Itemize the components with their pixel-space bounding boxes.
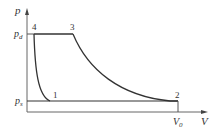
- x-axis-label: V: [201, 115, 209, 127]
- tick-ps: ps: [14, 95, 23, 108]
- tick-v0: V0: [173, 116, 183, 129]
- x-axis-arrow-icon: [201, 110, 208, 114]
- process-4-1: [34, 34, 50, 101]
- y-axis-arrow-icon: [25, 8, 29, 15]
- y-axis-label: p: [14, 4, 21, 16]
- pv-diagram: p pd ps V0 V 4 3 1 2: [0, 0, 224, 135]
- tick-pd: pd: [13, 28, 23, 41]
- point-3-label: 3: [70, 22, 75, 32]
- point-4-label: 4: [32, 22, 37, 32]
- process-2-3: [73, 34, 178, 101]
- diagram-canvas: p pd ps V0 V 4 3 1 2: [0, 0, 224, 135]
- point-2-label: 2: [175, 90, 180, 100]
- point-1-label: 1: [53, 90, 58, 100]
